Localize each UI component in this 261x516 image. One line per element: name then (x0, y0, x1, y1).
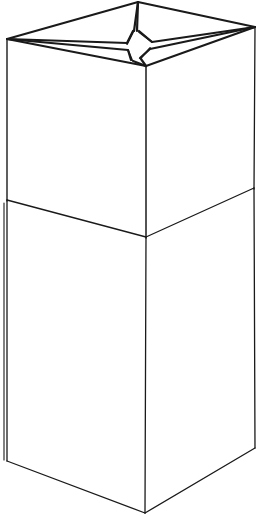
box-faces (7, 27, 255, 513)
open-box-line-drawing (0, 0, 261, 516)
lower-left-panel-fill (7, 200, 146, 513)
figure-canvas: Open cardboard box line drawing A tall r… (0, 0, 261, 516)
flap-back-right-fold (137, 2, 138, 31)
